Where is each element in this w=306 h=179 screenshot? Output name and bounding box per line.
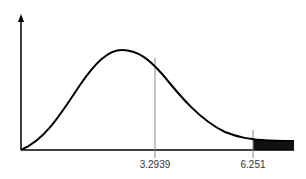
marker-label-3-2939: 3.2939	[140, 160, 171, 170]
marker-label-6-251: 6.251	[240, 160, 265, 170]
y-axis-arrow-icon	[18, 14, 24, 22]
distribution-diagram	[0, 0, 306, 179]
